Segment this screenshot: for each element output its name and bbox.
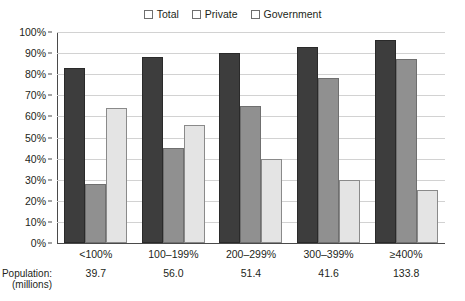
population-caption-line1: Population: — [0, 268, 52, 279]
y-axis-tick-label: 0% — [31, 238, 46, 249]
y-axis-tick-label: 50% — [25, 132, 46, 143]
x-axis-category-label: ≥400% — [367, 249, 445, 260]
plot-area — [57, 32, 445, 243]
bar-government — [261, 159, 282, 243]
y-axis-tick-label: 70% — [25, 90, 46, 101]
x-axis-category-label: <100% — [57, 249, 135, 260]
y-axis-tick-label: 90% — [25, 48, 46, 59]
bar-private — [85, 184, 106, 243]
x-axis-baseline — [57, 243, 445, 244]
y-axis-tick-mark — [48, 158, 52, 159]
y-axis-tick-mark — [48, 200, 52, 201]
y-axis-tick-label: 80% — [25, 69, 46, 80]
legend-swatch-total-icon — [144, 10, 153, 19]
bar-government — [417, 190, 438, 243]
y-axis-tick-label: 60% — [25, 111, 46, 122]
x-axis-category-label: 300–399% — [290, 249, 368, 260]
y-axis-tick-mark — [48, 116, 52, 117]
population-row: Population: (millions) 39.756.051.441.61… — [0, 268, 465, 290]
bar-government — [184, 125, 205, 243]
population-caption: Population: (millions) — [0, 268, 57, 290]
bar-groups — [57, 32, 445, 243]
y-axis-tick-mark — [48, 32, 52, 33]
bar-total — [375, 40, 396, 243]
population-caption-line2: (millions) — [0, 279, 52, 290]
x-axis-labels: <100%100–199%200–299%300–399%≥400% — [57, 249, 445, 260]
bar-group — [367, 32, 445, 243]
legend-label-government: Government — [264, 9, 322, 20]
bar-private — [240, 106, 261, 243]
chart-legend: Total Private Government — [0, 9, 465, 20]
legend-item-government: Government — [251, 9, 322, 20]
bar-private — [396, 59, 417, 243]
y-axis-tick-mark — [48, 137, 52, 138]
bar-group — [57, 32, 135, 243]
y-axis-tick-label: 20% — [25, 196, 46, 207]
bar-government — [339, 180, 360, 243]
y-axis-tick-mark — [48, 95, 52, 96]
y-axis-tick-label: 30% — [25, 174, 46, 185]
legend-item-private: Private — [192, 9, 238, 20]
x-axis-category-label: 200–299% — [212, 249, 290, 260]
legend-label-private: Private — [205, 9, 238, 20]
y-axis-tick-mark — [48, 74, 52, 75]
legend-swatch-government-icon — [251, 10, 260, 19]
y-axis: 100%90%80%70%60%50%40%30%20%10%0% — [0, 32, 52, 243]
population-value: 133.8 — [367, 268, 445, 279]
bar-total — [142, 57, 163, 243]
y-axis-tick-mark — [48, 179, 52, 180]
bar-group — [135, 32, 213, 243]
bar-group — [212, 32, 290, 243]
bar-total — [64, 68, 85, 243]
bar-group — [290, 32, 368, 243]
y-axis-tick-label: 100% — [19, 27, 46, 38]
bar-total — [297, 47, 318, 243]
y-axis-tick-mark — [48, 221, 52, 222]
bar-government — [106, 108, 127, 243]
y-axis-tick-label: 40% — [25, 153, 46, 164]
y-axis-tick-mark — [48, 53, 52, 54]
population-value: 51.4 — [212, 268, 290, 279]
y-axis-tick-label: 10% — [25, 217, 46, 228]
legend-label-total: Total — [157, 9, 179, 20]
population-value: 41.6 — [290, 268, 368, 279]
legend-swatch-private-icon — [192, 10, 201, 19]
bar-total — [219, 53, 240, 243]
population-values: 39.756.051.441.6133.8 — [57, 268, 445, 279]
y-axis-tick-mark — [48, 243, 52, 244]
population-value: 56.0 — [135, 268, 213, 279]
legend-item-total: Total — [144, 9, 179, 20]
x-axis-category-label: 100–199% — [135, 249, 213, 260]
population-value: 39.7 — [57, 268, 135, 279]
bar-private — [318, 78, 339, 243]
bar-chart-figure: Total Private Government 100%90%80%70%60… — [0, 0, 465, 301]
bar-private — [163, 148, 184, 243]
